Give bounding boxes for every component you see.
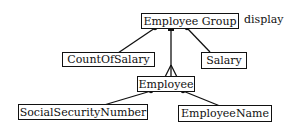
count-of-salary-label: CountOfSalary bbox=[67, 53, 149, 66]
social-security-number-label: SocialSecurityNumber bbox=[20, 106, 147, 119]
salary-label: Salary bbox=[206, 54, 242, 67]
employee-label: Employee bbox=[139, 78, 194, 91]
social-security-number-node[interactable]: SocialSecurityNumber bbox=[18, 104, 148, 120]
count-of-salary-node[interactable]: CountOfSalary bbox=[62, 52, 155, 67]
employee-name-node[interactable]: EmployeeName bbox=[178, 105, 272, 122]
employee-node[interactable]: Employee bbox=[137, 76, 195, 92]
display-annotation: display bbox=[244, 13, 284, 26]
employee-name-label: EmployeeName bbox=[181, 107, 269, 120]
employee-group-node[interactable]: Employee Group bbox=[141, 13, 239, 29]
employee-group-label: Employee Group bbox=[143, 15, 236, 28]
salary-node[interactable]: Salary bbox=[201, 52, 247, 69]
